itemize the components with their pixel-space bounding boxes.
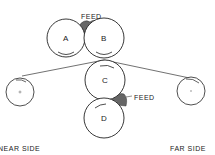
roller-c: C xyxy=(85,60,125,100)
roller-b-label: B xyxy=(101,34,106,43)
roller-a-label: A xyxy=(63,34,69,43)
roller-diagram: A B C D FEED FEED NEAR SIDE FAR SIDE xyxy=(0,0,215,155)
roller-d: D xyxy=(84,98,124,138)
feed-label-right: FEED xyxy=(134,94,155,101)
pulley-far xyxy=(177,77,205,105)
roller-a: A xyxy=(47,19,85,57)
roller-b: B xyxy=(84,18,124,58)
feed-label-top: FEED xyxy=(81,13,102,20)
roller-d-label: D xyxy=(101,114,107,123)
roller-c-label: C xyxy=(102,76,108,85)
near-side-label: NEAR SIDE xyxy=(0,145,40,152)
pulley-near xyxy=(6,78,34,106)
far-side-label: FAR SIDE xyxy=(170,145,206,152)
feed-pointer xyxy=(126,96,132,97)
